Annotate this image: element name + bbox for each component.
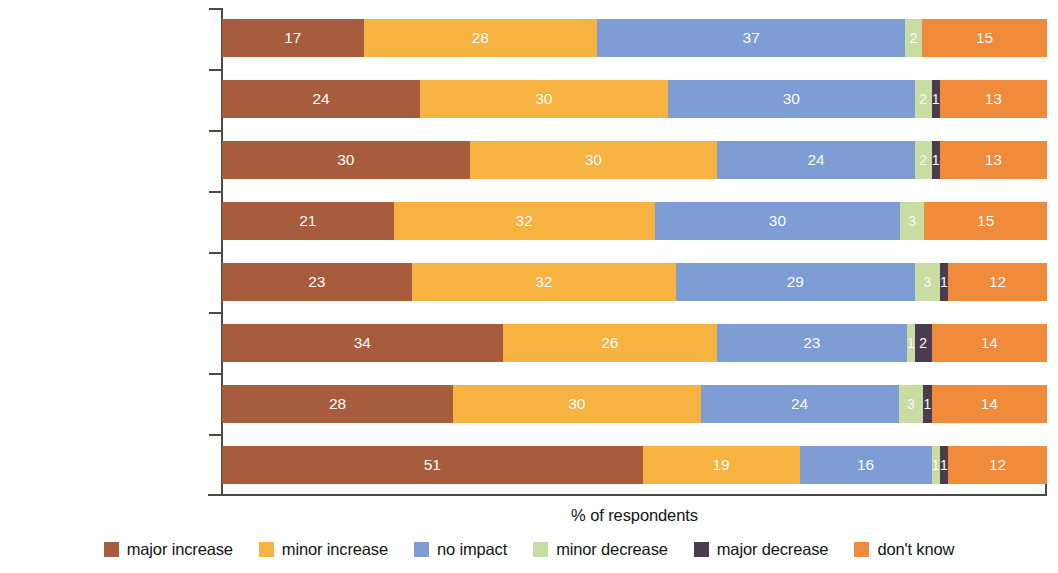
legend-label: minor increase xyxy=(282,540,388,559)
segment-value-label: 1 xyxy=(932,152,940,168)
stacked-bar: 3030242113 xyxy=(222,141,1047,179)
segment-value-label: 30 xyxy=(568,395,585,413)
segment-value-label: 24 xyxy=(791,395,808,413)
y-axis-tick xyxy=(209,252,222,254)
segment-value-label: 3 xyxy=(923,274,931,290)
legend-label: major decrease xyxy=(717,540,829,559)
bar-segment: 3 xyxy=(900,202,925,240)
bar-segment: 16 xyxy=(800,446,932,484)
bar-segment: 30 xyxy=(222,141,470,179)
bar-segment: 30 xyxy=(453,385,701,423)
legend-label: minor decrease xyxy=(556,540,668,559)
segment-value-label: 12 xyxy=(989,456,1006,474)
bar-segment: 21 xyxy=(222,202,394,240)
bar-segment: 34 xyxy=(222,324,503,362)
chart-legend: major increaseminor increaseno impactmin… xyxy=(0,540,1058,559)
bar-segment: 2 xyxy=(915,80,932,118)
legend-item[interactable]: major increase xyxy=(104,540,233,559)
y-axis-tick xyxy=(209,130,222,132)
bar-segment: 37 xyxy=(597,19,905,57)
bar-segment: 28 xyxy=(222,385,453,423)
legend-swatch-icon xyxy=(104,542,119,557)
bar-segment: 1 xyxy=(932,446,940,484)
bar-segment: 26 xyxy=(503,324,718,362)
segment-value-label: 51 xyxy=(424,456,441,474)
segment-value-label: 1 xyxy=(932,91,940,107)
segment-value-label: 1 xyxy=(932,457,940,473)
legend-label: major increase xyxy=(127,540,233,559)
segment-value-label: 26 xyxy=(601,334,618,352)
stacked-bar: 172837215 xyxy=(222,19,1047,57)
bar-segment: 23 xyxy=(717,324,907,362)
legend-item[interactable]: no impact xyxy=(414,540,507,559)
bar-segment: 2 xyxy=(915,324,932,362)
segment-value-label: 28 xyxy=(329,395,346,413)
chart-row: nonhonoring of government guarantees3030… xyxy=(222,141,1047,179)
chart-row: transfer and convertability restrictions… xyxy=(222,19,1047,57)
bar-segment: 2 xyxy=(915,141,932,179)
stacked-bar: 213230315 xyxy=(222,202,1047,240)
bar-segment: 1 xyxy=(940,263,948,301)
legend-swatch-icon xyxy=(854,542,869,557)
legend-item[interactable]: major decrease xyxy=(694,540,829,559)
segment-value-label: 2 xyxy=(919,335,927,351)
segment-value-label: 30 xyxy=(783,90,800,108)
chart-row: breach of contract2430302113 xyxy=(222,80,1047,118)
segment-value-label: 14 xyxy=(981,395,998,413)
segment-value-label: 34 xyxy=(354,334,371,352)
bar-segment: 30 xyxy=(668,80,916,118)
bar-segment: 28 xyxy=(364,19,597,57)
bar-segment: 24 xyxy=(717,141,915,179)
segment-value-label: 24 xyxy=(312,90,329,108)
bar-segment: 15 xyxy=(924,202,1047,240)
bar-segment: 14 xyxy=(932,385,1048,423)
chart-row: war3426231214 xyxy=(222,324,1047,362)
legend-item[interactable]: minor decrease xyxy=(533,540,668,559)
bar-segment: 51 xyxy=(222,446,643,484)
bar-segment: 30 xyxy=(655,202,900,240)
bar-segment: 24 xyxy=(222,80,420,118)
segment-value-label: 15 xyxy=(977,212,994,230)
bar-segment: 1 xyxy=(932,80,940,118)
legend-item[interactable]: minor increase xyxy=(259,540,388,559)
plot-area: transfer and convertability restrictions… xyxy=(222,8,1047,495)
segment-value-label: 2 xyxy=(919,91,927,107)
segment-value-label: 32 xyxy=(516,212,533,230)
bar-segment: 17 xyxy=(222,19,364,57)
y-axis-tick xyxy=(209,312,222,314)
segment-value-label: 12 xyxy=(989,273,1006,291)
segment-value-label: 21 xyxy=(299,212,316,230)
segment-value-label: 23 xyxy=(308,273,325,291)
legend-swatch-icon xyxy=(414,542,429,557)
bar-segment: 12 xyxy=(948,446,1047,484)
y-axis-tick xyxy=(209,373,222,375)
segment-value-label: 1 xyxy=(940,457,948,473)
segment-value-label: 30 xyxy=(337,151,354,169)
bar-segment: 23 xyxy=(222,263,412,301)
segment-value-label: 30 xyxy=(769,212,786,230)
legend-item[interactable]: don't know xyxy=(854,540,954,559)
bar-segment: 30 xyxy=(420,80,668,118)
segment-value-label: 13 xyxy=(985,90,1002,108)
stacked-bar: 2430302113 xyxy=(222,80,1047,118)
bar-segment: 15 xyxy=(922,19,1047,57)
y-axis-tick xyxy=(209,69,222,71)
segment-value-label: 19 xyxy=(713,456,730,474)
segment-value-label: 28 xyxy=(472,29,489,47)
bar-segment: 19 xyxy=(643,446,800,484)
stacked-bar: 2830243114 xyxy=(222,385,1047,423)
segment-value-label: 32 xyxy=(535,273,552,291)
segment-value-label: 15 xyxy=(976,29,993,47)
segment-value-label: 16 xyxy=(857,456,874,474)
chart-row: civil disturbance5119161112 xyxy=(222,446,1047,484)
legend-label: don't know xyxy=(877,540,954,559)
bar-segment: 1 xyxy=(923,385,931,423)
segment-value-label: 30 xyxy=(535,90,552,108)
bar-segment: 32 xyxy=(412,263,676,301)
bar-segment: 30 xyxy=(470,141,718,179)
segment-value-label: 17 xyxy=(284,29,301,47)
y-axis-tick xyxy=(209,191,222,193)
segment-value-label: 2 xyxy=(919,152,927,168)
y-axis-top-tick xyxy=(209,8,222,10)
chart-row: terrorism2830243114 xyxy=(222,385,1047,423)
